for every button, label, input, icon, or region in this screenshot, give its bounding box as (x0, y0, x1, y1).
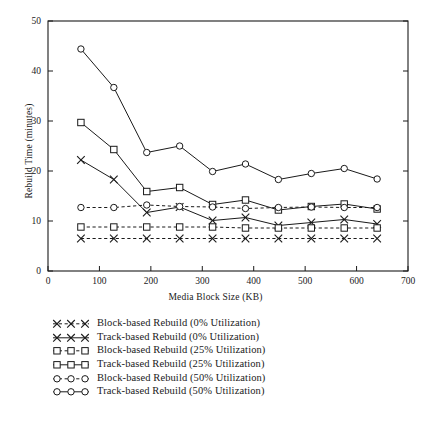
data-point-circle (275, 204, 281, 210)
data-point-square (68, 362, 74, 368)
series-line (81, 123, 377, 211)
series-0 (77, 235, 381, 243)
series-line (81, 49, 377, 180)
series-4 (78, 202, 381, 212)
plot-area: 010020030040050060070001020304050 Rebuil… (0, 0, 431, 300)
data-point-square (78, 119, 84, 125)
legend-marker-circle-icon (52, 384, 90, 397)
legend-label: Block-based Rebuild (50% Utilization) (97, 372, 265, 383)
x-axis-title: Media Block Size (KB) (0, 292, 431, 302)
data-point-square (275, 225, 281, 231)
data-point-square (242, 225, 248, 231)
data-point-circle (82, 389, 88, 395)
chart-svg: 010020030040050060070001020304050 (0, 0, 431, 300)
x-tick-label: 600 (349, 276, 364, 286)
data-point-square (78, 224, 84, 230)
legend-label: Block-based Rebuild (0% Utilization) (97, 317, 260, 328)
legend-item: Track-based Rebuild (25% Utilization) (52, 357, 422, 371)
legend-item: Block-based Rebuild (0% Utilization) (52, 316, 422, 330)
y-axis-title: Rebuild Time (minutes) (24, 66, 34, 236)
data-point-circle (275, 176, 281, 182)
data-point-circle (374, 204, 380, 210)
data-point-square (176, 184, 182, 190)
data-point-circle (209, 204, 215, 210)
legend-item: Block-based Rebuild (25% Utilization) (52, 343, 422, 357)
data-point-circle (308, 204, 314, 210)
legend-marker-circle-icon (52, 371, 90, 384)
data-point-circle (242, 161, 248, 167)
legend-item: Block-based Rebuild (50% Utilization) (52, 370, 422, 384)
data-point-circle (78, 46, 84, 52)
data-point-square (144, 188, 150, 194)
data-point-square (82, 348, 88, 354)
series-1 (77, 156, 381, 229)
legend-marker-square-icon (52, 343, 90, 356)
data-point-square (341, 225, 347, 231)
data-point-circle (78, 204, 84, 210)
legend-marker-x-icon (52, 316, 90, 329)
data-point-square (54, 348, 60, 354)
data-point-square (176, 224, 182, 230)
legend-label: Block-based Rebuild (25% Utilization) (97, 344, 265, 355)
legend-item: Track-based Rebuild (50% Utilization) (52, 384, 422, 398)
x-tick-label: 200 (144, 276, 159, 286)
data-point-circle (176, 143, 182, 149)
x-tick-label: 0 (46, 276, 51, 286)
data-point-square (308, 225, 314, 231)
data-point-circle (242, 205, 248, 211)
legend-marker-square-icon (52, 357, 90, 370)
legend-label: Track-based Rebuild (25% Utilization) (97, 358, 265, 369)
legend-label: Track-based Rebuild (0% Utilization) (97, 331, 259, 342)
data-point-square (209, 224, 215, 230)
series-5 (78, 46, 381, 183)
chart-legend: Block-based Rebuild (0% Utilization)Trac… (52, 316, 422, 398)
data-point-circle (54, 389, 60, 395)
data-point-square (374, 225, 380, 231)
figure: 010020030040050060070001020304050 Rebuil… (0, 0, 431, 429)
data-point-circle (341, 165, 347, 171)
data-point-square (242, 197, 248, 203)
data-point-circle (82, 375, 88, 381)
legend-label: Track-based Rebuild (50% Utilization) (97, 385, 265, 396)
x-tick-label: 100 (92, 276, 107, 286)
data-point-circle (209, 168, 215, 174)
data-point-square (68, 348, 74, 354)
x-tick-label: 500 (298, 276, 313, 286)
series-2 (78, 224, 381, 231)
data-point-square (54, 362, 60, 368)
axes-frame (48, 21, 408, 271)
data-point-circle (54, 375, 60, 381)
x-tick-label: 700 (401, 276, 416, 286)
series-line (81, 227, 377, 228)
legend-marker-x-icon (52, 330, 90, 343)
data-point-square (144, 224, 150, 230)
data-point-circle (144, 202, 150, 208)
data-point-circle (176, 203, 182, 209)
data-point-circle (68, 375, 74, 381)
data-point-circle (111, 84, 117, 90)
data-point-circle (308, 170, 314, 176)
data-point-circle (341, 204, 347, 210)
data-point-circle (68, 389, 74, 395)
series-3 (78, 119, 381, 213)
data-point-square (111, 146, 117, 152)
x-tick-label: 400 (247, 276, 262, 286)
y-tick-label: 0 (36, 266, 41, 276)
data-point-square (82, 362, 88, 368)
data-point-circle (144, 149, 150, 155)
data-point-circle (374, 176, 380, 182)
legend-item: Track-based Rebuild (0% Utilization) (52, 330, 422, 344)
y-tick-label: 50 (32, 16, 42, 26)
x-tick-label: 300 (195, 276, 210, 286)
data-point-square (111, 224, 117, 230)
series-line (81, 205, 377, 209)
data-point-circle (111, 204, 117, 210)
